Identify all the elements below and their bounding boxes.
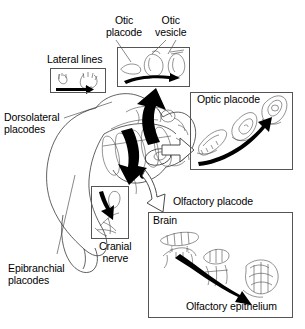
arrow-to-olfactory-panel	[142, 170, 165, 212]
otic-panel	[117, 47, 190, 87]
lateral-lines-label: Lateral lines	[47, 54, 102, 66]
epibranchial-leader-line	[57, 175, 75, 254]
epibranchial-placodes-label: Epibranchial placodes	[8, 263, 65, 286]
otic-placode-label: Otic placode	[106, 15, 142, 38]
olfactory-placode-label: Olfactory placode	[173, 196, 253, 208]
cranial-nerve-panel	[91, 186, 129, 239]
optic-placode-label: Optic placode	[197, 94, 260, 106]
otic-vesicle-label: Otic vesicle	[155, 15, 186, 38]
cranial-nerve-label: Cranial nerve	[99, 241, 132, 264]
dorsolateral-placodes-label: Dorsolateral placodes	[4, 112, 59, 135]
olfactory-epithelium-label: Olfactory epithelium	[186, 301, 277, 313]
lateral-lines-panel	[50, 68, 106, 93]
placode-derivative-diagram: Otic placode Otic vesicle Lateral lines …	[0, 0, 305, 329]
brain-label: Brain	[153, 215, 177, 227]
